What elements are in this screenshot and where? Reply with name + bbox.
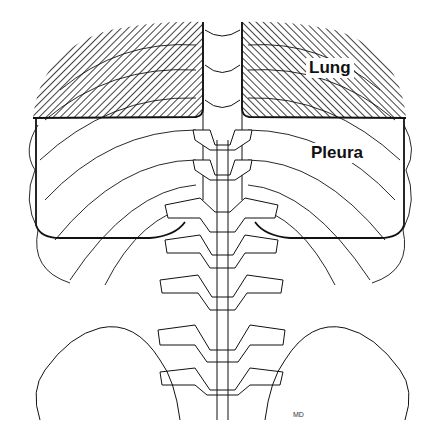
pelvis [36,327,409,420]
artist-signature: MD [293,411,304,418]
lung-label: Lung [306,58,354,78]
pleura-label: Pleura [308,143,366,163]
anatomy-drawing [0,0,441,440]
